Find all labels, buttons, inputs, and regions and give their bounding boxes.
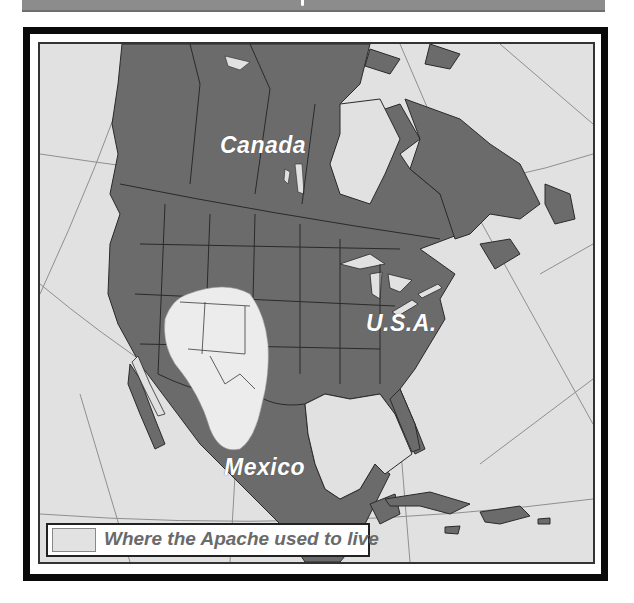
label-mexico: Mexico — [224, 454, 305, 481]
legend-swatch-apache — [52, 528, 96, 552]
header-bar — [22, 0, 605, 12]
map-legend: Where the Apache used to live — [46, 523, 370, 557]
header-mark — [301, 0, 304, 6]
label-canada: Canada — [220, 132, 306, 159]
label-usa: U.S.A. — [366, 310, 437, 337]
map-graphic — [40, 44, 593, 562]
legend-text: Where the Apache used to live — [104, 528, 379, 550]
north-america-map: Canada U.S.A. Mexico — [38, 42, 595, 564]
